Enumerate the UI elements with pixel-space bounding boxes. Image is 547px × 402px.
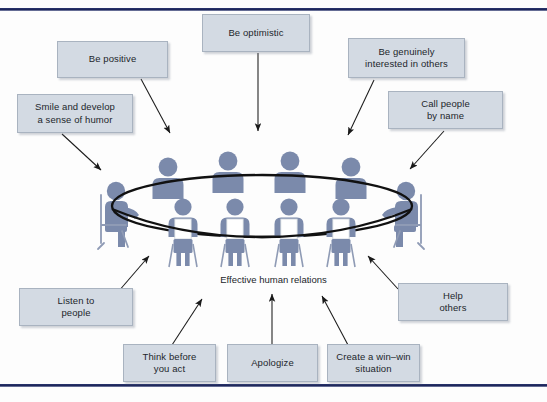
arrow-smile-and-develop xyxy=(62,134,101,170)
label-box-create-win-win[interactable]: Create a win–win situation xyxy=(327,344,420,382)
arrow-think-before-you-act xyxy=(172,299,202,345)
label-line: Listen to xyxy=(58,295,95,308)
label-box-smile-and-develop[interactable]: Smile and develop a sense of humor xyxy=(17,94,133,133)
back-row-person-3 xyxy=(275,152,306,193)
front-row-person-2 xyxy=(221,198,250,267)
label-line: Be positive xyxy=(89,53,137,66)
label-box-think-before-you-act[interactable]: Think before you act xyxy=(123,344,216,382)
label-line: Help xyxy=(443,290,463,303)
front-row-person-3 xyxy=(275,198,304,267)
side-person-left xyxy=(98,182,139,249)
arrow-be-positive xyxy=(141,79,170,133)
label-line: Think before xyxy=(142,351,196,364)
back-row-person-4 xyxy=(336,158,367,199)
label-line: a sense of humor xyxy=(37,114,112,127)
label-line: Be optimistic xyxy=(228,27,283,40)
label-box-help-others[interactable]: Help others xyxy=(398,283,508,321)
label-box-call-people-by-name[interactable]: Call people by name xyxy=(388,91,503,129)
label-line: you act xyxy=(154,363,185,376)
label-line: interested in others xyxy=(365,58,448,71)
bottom-navy-rule xyxy=(0,384,547,387)
label-line: Create a win–win xyxy=(336,351,410,364)
label-box-apologize[interactable]: Apologize xyxy=(227,344,318,382)
arrow-be-genuinely-interested xyxy=(348,80,374,135)
label-box-be-genuinely-interested[interactable]: Be genuinely interested in others xyxy=(348,38,465,78)
front-row-person-4 xyxy=(327,198,356,267)
label-line: Call people xyxy=(421,98,470,111)
diagram-figure: Be positive Be optimistic Be genuinely i… xyxy=(0,0,547,402)
label-line: Apologize xyxy=(251,357,294,370)
oval-table xyxy=(112,175,412,237)
back-row-person-2 xyxy=(213,152,244,193)
label-line: others xyxy=(439,302,466,315)
label-box-listen-to-people[interactable]: Listen to people xyxy=(19,288,133,326)
label-line: people xyxy=(61,307,90,320)
label-line: Smile and develop xyxy=(35,101,115,114)
side-person-right xyxy=(382,182,424,249)
label-line: by name xyxy=(427,110,464,123)
label-line: situation xyxy=(355,363,391,376)
back-row-person-1 xyxy=(153,158,184,199)
label-line: Be genuinely xyxy=(378,46,434,59)
arrow-create-win-win xyxy=(322,296,348,345)
front-row-person-1 xyxy=(169,198,198,267)
arrow-call-people-by-name xyxy=(410,131,444,169)
label-box-be-optimistic[interactable]: Be optimistic xyxy=(202,14,310,52)
diagram-caption: Effective human relations xyxy=(0,274,547,285)
diagram-scene: Be positive Be optimistic Be genuinely i… xyxy=(0,11,547,384)
label-box-be-positive[interactable]: Be positive xyxy=(57,41,168,78)
